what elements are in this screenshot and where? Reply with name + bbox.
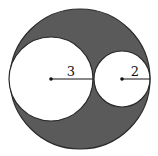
diagram-canvas: 3 2 <box>0 0 158 156</box>
large-center-dot <box>49 77 53 81</box>
circles-diagram: 3 2 <box>0 0 158 156</box>
large-radius-label: 3 <box>67 64 75 79</box>
small-center-dot <box>120 77 124 81</box>
small-radius-label: 2 <box>131 64 139 79</box>
